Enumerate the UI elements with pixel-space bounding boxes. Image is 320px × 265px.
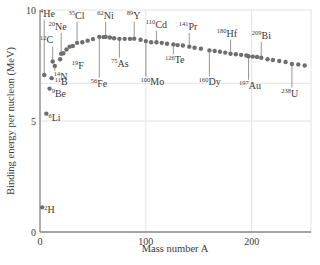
y-axis-title: Binding energy per nucleon (MeV)	[5, 47, 17, 195]
nuclide-label-11b: 11B	[55, 76, 68, 88]
data-point	[80, 40, 84, 44]
nuclide-label-2h: 2H	[44, 204, 54, 216]
data-point	[290, 62, 294, 66]
nuclide-label-126te: 126Te	[165, 54, 185, 66]
data-point	[296, 62, 300, 66]
data-point	[251, 54, 255, 58]
data-point	[259, 56, 263, 60]
data-point	[271, 58, 275, 62]
data-point	[103, 35, 107, 39]
data-point	[154, 40, 158, 44]
data-point	[117, 37, 121, 41]
y-tick-label: 0	[31, 227, 36, 238]
chart-svg: 01002000510 4He20Ne12C35Cl62Ni89Y110Cd14…	[0, 0, 320, 265]
nuclide-label-9be: 9Be	[52, 87, 67, 99]
data-point	[128, 37, 132, 41]
data-point	[302, 63, 306, 67]
data-point	[239, 53, 243, 57]
nuclide-label-62ni: 62Ni	[97, 9, 114, 21]
nuclide-label-141pr: 141Pr	[179, 20, 198, 32]
x-tick-label: 0	[38, 236, 43, 247]
data-point	[149, 40, 153, 44]
nuclide-label-19f: 19F	[72, 59, 85, 71]
nuclide-label-75as: 75As	[111, 57, 129, 69]
data-point	[138, 38, 142, 42]
data-point	[265, 57, 269, 61]
binding-energy-chart: 01002000510 4He20Ne12C35Cl62Ni89Y110Cd14…	[0, 0, 320, 265]
data-point	[97, 35, 101, 39]
x-tick-label: 200	[244, 236, 259, 247]
data-point	[234, 52, 238, 56]
nuclide-labels: 4He20Ne12C35Cl62Ni89Y110Cd141Pr180Hf209B…	[40, 7, 299, 215]
data-point	[199, 46, 203, 50]
nuclide-label-35cl: 35Cl	[69, 9, 85, 21]
x-axis-title: Mass number A	[142, 243, 209, 254]
data-point	[71, 44, 75, 48]
data-point	[255, 55, 259, 59]
data-point	[132, 36, 136, 40]
data-point	[283, 60, 287, 64]
nuclide-label-20ne: 20Ne	[48, 20, 67, 32]
data-point	[51, 59, 55, 63]
nuclide-label-56fe: 56Fe	[91, 77, 108, 89]
data-point	[122, 37, 126, 41]
nuclide-label-160dy: 160Dy	[199, 76, 221, 88]
data-point	[108, 35, 112, 39]
data-point	[144, 39, 148, 43]
data-point	[223, 50, 227, 54]
data-point	[61, 51, 65, 55]
nuclide-label-238u: 238U	[281, 87, 299, 99]
data-point	[218, 50, 222, 54]
y-tick-label: 10	[26, 5, 36, 16]
data-point	[192, 46, 196, 50]
nuclide-label-180hf: 180Hf	[217, 27, 238, 39]
data-point	[207, 48, 211, 52]
data-point	[58, 57, 62, 61]
data-point	[53, 64, 57, 68]
nuclide-label-100mo: 100Mo	[141, 76, 165, 88]
nuclide-label-209bi: 209Bi	[252, 29, 271, 41]
data-point	[75, 41, 79, 45]
data-point	[171, 42, 175, 46]
data-point	[228, 52, 232, 56]
nuclide-label-12c: 12C	[40, 34, 54, 46]
data-point	[175, 43, 179, 47]
data-point	[91, 37, 95, 41]
data-point	[160, 41, 164, 45]
data-point	[181, 43, 185, 47]
nuclide-label-110cd: 110Cd	[146, 18, 167, 30]
data-point	[187, 44, 191, 48]
nuclide-label-89y: 89Y	[127, 9, 141, 21]
data-point	[212, 49, 216, 53]
data-point	[246, 54, 250, 58]
data-point	[277, 59, 281, 63]
data-point	[85, 38, 89, 42]
nuclide-label-4he: 4He	[40, 7, 55, 19]
nuclide-label-197au: 197Au	[239, 79, 261, 91]
data-point	[112, 36, 116, 40]
data-point	[165, 42, 169, 46]
y-tick-label: 5	[31, 116, 36, 127]
data-point	[42, 73, 46, 77]
